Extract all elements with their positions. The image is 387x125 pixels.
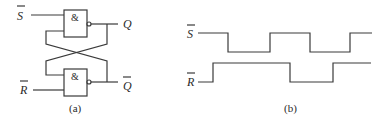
q-bar-output-label: Q — [123, 77, 132, 93]
inversion-bubble-icon — [87, 22, 91, 26]
and-symbol: & — [71, 71, 79, 82]
top-nand-gate: & — [64, 10, 91, 37]
r-label: R — [19, 83, 28, 97]
s-label: S — [17, 9, 23, 23]
s-label: S — [187, 27, 193, 41]
s-bar-input-label: S — [17, 6, 25, 23]
and-symbol: & — [71, 12, 79, 23]
r-bar-waveform — [198, 63, 371, 82]
caption-b: (b) — [284, 102, 297, 115]
r-bar-input-label: R — [19, 81, 28, 97]
caption-a: (a) — [69, 102, 82, 115]
q-output-label: Q — [123, 17, 132, 31]
r-label: R — [186, 75, 195, 89]
r-bar-waveform-label: R — [186, 73, 195, 89]
inversion-bubble-icon — [87, 80, 91, 84]
waveform-diagram: S R (b) — [186, 25, 372, 115]
bottom-nand-gate: & — [64, 69, 91, 96]
q-bar-label: Q — [123, 79, 132, 93]
s-bar-waveform-label: S — [187, 25, 195, 41]
figure-canvas: S & Q & Q R — [0, 0, 387, 125]
s-bar-waveform — [198, 33, 372, 52]
sr-latch-diagram: S & Q & Q R — [17, 6, 132, 115]
